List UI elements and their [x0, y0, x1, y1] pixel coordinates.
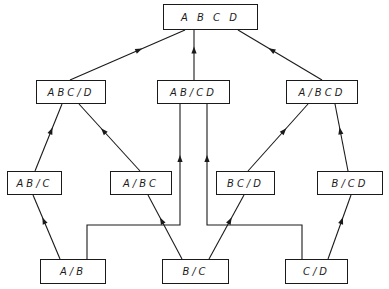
node-ABC_D: ABC/D	[36, 80, 106, 104]
node-label: A/BC	[123, 178, 159, 189]
arrowhead-icon	[177, 155, 182, 162]
node-A_BCD: A/BCD	[286, 80, 358, 104]
node-label: A B C D	[181, 12, 240, 23]
arrowhead-icon	[338, 217, 343, 224]
arrowhead-icon	[269, 48, 276, 54]
edge-B_C-to-A_BC	[148, 195, 182, 259]
node-A_BC: A/BC	[110, 171, 172, 195]
node-label: A/B	[60, 266, 86, 277]
edge-B_C-to-BC_D	[209, 195, 244, 259]
edge-BC_D-to-A_BCD	[248, 104, 308, 171]
edge-C_D-to-B_CD	[328, 195, 351, 259]
node-B_C: B/C	[162, 259, 229, 284]
edge-A_B-to-AB_C	[33, 195, 60, 259]
node-C_D: C/D	[285, 259, 348, 284]
arrowhead-icon	[204, 155, 209, 162]
node-A_B: A/B	[40, 259, 106, 284]
edge-layer	[0, 0, 389, 289]
edge-ABC_D-to-ABCD	[70, 30, 185, 80]
node-label: AB/CD	[170, 87, 217, 98]
node-label: B/CD	[332, 178, 369, 189]
node-label: A/BCD	[299, 87, 346, 98]
arrowhead-icon	[191, 47, 196, 54]
edge-AB_C-to-ABC_D	[35, 104, 62, 171]
node-ABCD: A B C D	[163, 4, 258, 30]
node-BC_D: BC/D	[216, 171, 275, 195]
node-AB_C: AB/C	[7, 171, 62, 195]
edge-A_BCD-to-ABCD	[238, 30, 322, 80]
arrowhead-icon	[42, 217, 47, 224]
node-AB_CD: AB/CD	[157, 80, 230, 104]
arrowhead-icon	[47, 128, 52, 135]
arrowhead-icon	[135, 49, 142, 54]
arrowhead-icon	[338, 127, 343, 134]
node-label: AB/C	[16, 178, 52, 189]
edge-B_CD-to-A_BCD	[335, 104, 348, 171]
node-label: ABC/D	[48, 87, 95, 98]
node-label: C/D	[303, 266, 330, 277]
edge-AB_CD-to-ABCD	[191, 30, 196, 80]
node-label: BC/D	[227, 178, 264, 189]
node-label: B/C	[182, 266, 208, 277]
arrowhead-icon	[160, 218, 166, 225]
arrowhead-icon	[226, 218, 232, 225]
node-B_CD: B/CD	[317, 171, 383, 195]
edge-A_BC-to-ABC_D	[79, 104, 140, 171]
